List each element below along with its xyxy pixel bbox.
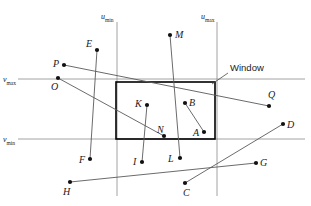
point-dot-P	[62, 63, 66, 67]
point-label-O: O	[51, 82, 58, 92]
point-label-G: G	[260, 158, 267, 168]
figure-vector-layer	[0, 0, 311, 206]
point-label-K: K	[135, 99, 142, 109]
point-dot-M	[168, 33, 172, 37]
axis-label-u-max: umax	[201, 13, 214, 23]
segment-O-N	[58, 78, 164, 136]
segment-H-G	[70, 163, 256, 182]
point-dot-Q	[267, 104, 271, 108]
segment-K-I	[142, 105, 147, 162]
point-label-B: B	[189, 98, 195, 108]
point-dot-K	[145, 103, 149, 107]
axis-label-v-min: vmin	[3, 136, 15, 146]
segment-C-D	[185, 124, 283, 183]
window-rectangle	[116, 82, 215, 139]
point-dot-A	[202, 130, 206, 134]
point-label-N: N	[157, 125, 164, 135]
point-label-M: M	[175, 30, 183, 40]
axis-label-u-min: umin	[101, 13, 114, 23]
point-label-Q: Q	[268, 90, 275, 100]
point-dot-B	[183, 101, 187, 105]
point-label-P: P	[53, 59, 59, 69]
point-dot-E	[95, 48, 99, 52]
point-dot-H	[68, 180, 72, 184]
point-label-F: F	[79, 155, 85, 165]
point-dot-F	[88, 157, 92, 161]
point-dot-C	[183, 181, 187, 185]
figure-canvas: umin umax vmax vmin Window A B C D E F G…	[0, 0, 311, 206]
point-label-C: C	[183, 188, 190, 198]
point-dot-G	[254, 161, 258, 165]
point-label-H: H	[63, 187, 70, 197]
axis-label-v-max: vmax	[3, 76, 16, 86]
point-dot-D	[281, 122, 285, 126]
point-label-L: L	[168, 154, 174, 164]
window-callout-label: Window	[230, 63, 264, 73]
window-callout-leader	[212, 73, 228, 84]
point-dot-I	[140, 160, 144, 164]
point-dot-L	[178, 156, 182, 160]
point-label-I: I	[133, 157, 136, 167]
axis-lines	[18, 22, 305, 196]
point-dot-O	[56, 76, 60, 80]
segment-E-F	[90, 50, 97, 159]
point-label-E: E	[86, 39, 92, 49]
point-label-D: D	[287, 120, 294, 130]
point-label-A: A	[193, 128, 199, 138]
